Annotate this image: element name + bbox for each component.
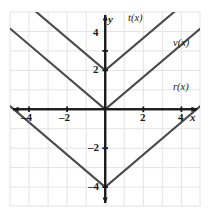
x-tick-label-pos2: 2	[140, 112, 146, 123]
coordinate-plane	[0, 0, 210, 217]
x-axis-label: x	[190, 112, 196, 123]
y-tick-label-pos2: 2	[93, 64, 99, 75]
x-tick-label-neg2: –2	[59, 112, 70, 123]
y-axis-label: y	[108, 14, 113, 25]
curve-label-t: t(x)	[128, 13, 143, 24]
curve-label-r: r(x)	[173, 82, 189, 93]
x-tick-label-pos4: 4	[178, 112, 184, 123]
y-tick-label-neg2: –2	[88, 142, 99, 153]
x-tick-label-neg4: –4	[21, 112, 32, 123]
curve-label-v: v(x)	[173, 38, 189, 49]
y-tick-label-pos4: 4	[93, 27, 99, 38]
graph-figure: –4 –2 2 4 4 2 –2 –4 y x t(x) v(x) r(x)	[0, 0, 210, 217]
y-tick-label-neg4: –4	[88, 181, 99, 192]
